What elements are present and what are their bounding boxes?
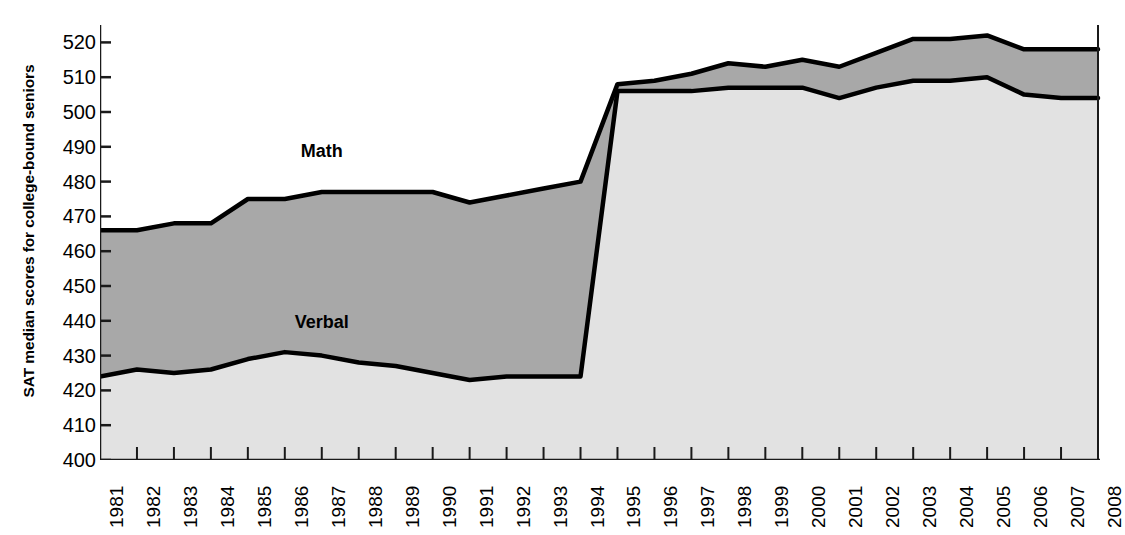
x-tick-label: 1990 — [440, 486, 459, 528]
x-tick-label: 1994 — [588, 486, 607, 528]
x-tick-label: 1983 — [181, 486, 200, 528]
x-tick-label: 1989 — [403, 486, 422, 528]
x-tick-label: 1993 — [551, 486, 570, 528]
x-tick-label: 2006 — [1031, 486, 1050, 528]
x-tick-label: 1984 — [218, 486, 237, 528]
x-tick-label: 1998 — [735, 486, 754, 528]
x-tick-label: 1986 — [292, 486, 311, 528]
x-tick-label: 2001 — [846, 486, 865, 528]
x-tick-label: 2004 — [957, 486, 976, 528]
x-tick-label: 1996 — [661, 486, 680, 528]
x-tick-label: 1988 — [366, 486, 385, 528]
x-tick-label: 1997 — [698, 486, 717, 528]
x-tick-label: 2002 — [883, 486, 902, 528]
x-tick-label: 2003 — [920, 486, 939, 528]
x-tick-label: 1992 — [514, 486, 533, 528]
x-tick-label: 1999 — [772, 486, 791, 528]
x-tick-label: 1981 — [107, 486, 126, 528]
x-tick-label: 1987 — [329, 486, 348, 528]
x-tick-label: 2000 — [809, 486, 828, 528]
x-tick-label: 1982 — [144, 486, 163, 528]
x-tick-label: 1991 — [477, 486, 496, 528]
x-tick-label: 2005 — [994, 486, 1013, 528]
x-tick-label: 1995 — [624, 486, 643, 528]
x-tick-label: 2008 — [1105, 486, 1124, 528]
x-tick-label: 2007 — [1068, 486, 1087, 528]
x-tick-label: 1985 — [255, 486, 274, 528]
